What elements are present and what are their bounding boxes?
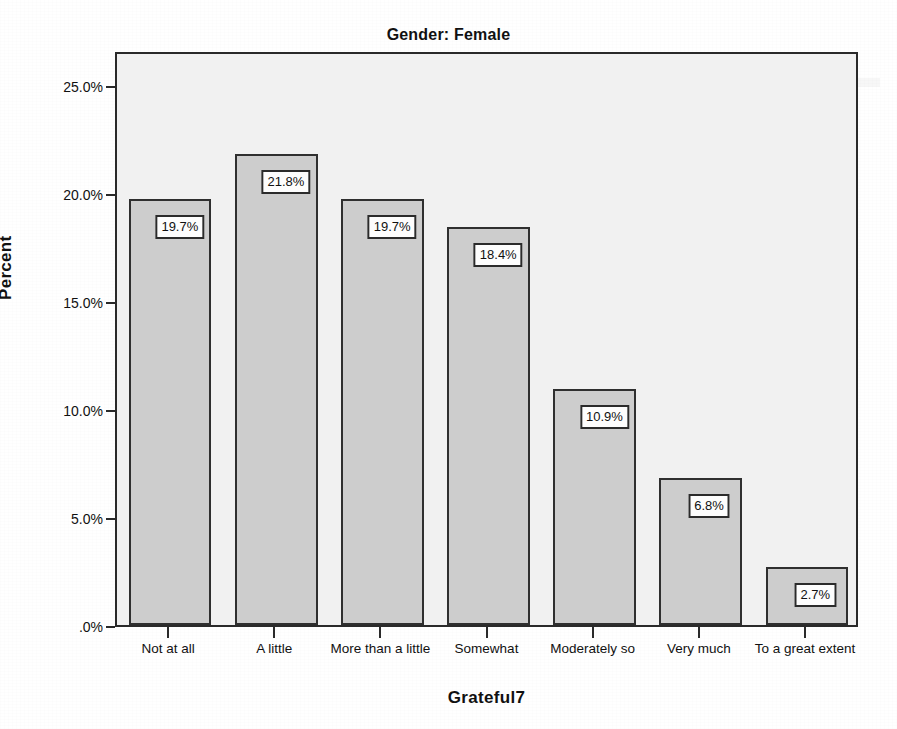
y-tick-mark [106, 410, 115, 412]
x-tick-label: Somewhat [435, 641, 539, 657]
x-tick-label: A little [222, 641, 326, 657]
bar-value-label: 2.7% [794, 583, 836, 607]
x-tick-mark [167, 627, 169, 638]
x-axis-title: Grateful7 [115, 688, 858, 708]
y-tick-label: 20.0% [63, 187, 103, 203]
bar: 6.8% [659, 478, 742, 625]
x-tick-label: Very much [647, 641, 751, 657]
bar: 21.8% [235, 154, 318, 625]
y-tick-mark [106, 518, 115, 520]
y-tick-label: 15.0% [63, 295, 103, 311]
bar: 2.7% [766, 567, 849, 625]
y-tick-label: .0% [79, 619, 103, 635]
bar-value-label: 21.8% [262, 170, 311, 194]
x-tick-label: Not at all [116, 641, 220, 657]
x-tick-mark [804, 627, 806, 638]
bar: 18.4% [447, 227, 530, 625]
y-tick-label: 10.0% [63, 403, 103, 419]
x-tick-mark [592, 627, 594, 638]
bar-value-label: 19.7% [155, 215, 204, 239]
plot-area: 19.7%21.8%19.7%18.4%10.9%6.8%2.7% [115, 52, 858, 627]
bar: 19.7% [129, 199, 212, 625]
y-tick-label: 5.0% [71, 511, 103, 527]
bar-value-label: 19.7% [368, 215, 417, 239]
x-tick-mark [698, 627, 700, 638]
y-axis-ticks: 25.0%20.0%15.0%10.0%5.0%.0% [0, 52, 115, 627]
y-tick-mark [106, 86, 115, 88]
bar: 19.7% [341, 199, 424, 625]
plot-inner: 19.7%21.8%19.7%18.4%10.9%6.8%2.7% [117, 54, 856, 625]
x-axis-labels: Not at allA littleMore than a littleSome… [115, 641, 858, 687]
bar-value-label: 18.4% [474, 243, 523, 267]
bar-value-label: 10.9% [580, 405, 629, 429]
x-tick-label: Moderately so [541, 641, 645, 657]
y-tick-mark [106, 626, 115, 628]
x-tick-label: To a great extent [753, 641, 857, 657]
x-tick-mark [486, 627, 488, 638]
x-tick-label: More than a little [328, 641, 432, 657]
x-tick-mark [379, 627, 381, 638]
bar: 10.9% [553, 389, 636, 625]
x-axis-ticks [115, 627, 858, 641]
x-tick-mark [273, 627, 275, 638]
y-tick-label: 25.0% [63, 79, 103, 95]
bar-value-label: 6.8% [688, 494, 730, 518]
y-tick-mark [106, 302, 115, 304]
chart-title: Gender: Female [0, 26, 897, 44]
y-tick-mark [106, 194, 115, 196]
